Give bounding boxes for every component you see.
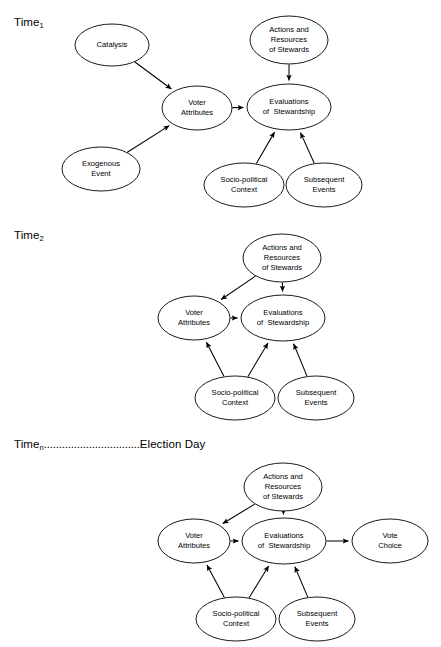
edge-subsequent-events-to-evaluations-of-stewardship: [294, 344, 307, 376]
node-label-socio-political-context: Socio-political: [213, 609, 260, 618]
nodes-layer: CatalysisExogenousEventVoterAttributesAc…: [62, 16, 428, 641]
node-label-actions-resources-of-stewards: of Stewards: [262, 263, 302, 272]
node-label-actions-resources-of-stewards: Actions and: [263, 472, 303, 481]
node-evaluations-of-stewardship: Evaluationsof Stewardship: [247, 84, 331, 130]
node-socio-political-context: Socio-politicalContext: [196, 597, 276, 641]
edge-exogenous-event-to-voter-attributes: [127, 126, 169, 153]
node-label-evaluations-of-stewardship: Evaluations: [264, 531, 303, 540]
edge-actions-resources-of-stewards-to-voter-attributes: [223, 504, 255, 523]
node-label-voter-attributes: Attributes: [178, 541, 210, 550]
node-label-vote-choice: Choice: [378, 541, 402, 550]
edge-actions-resources-of-stewards-to-voter-attributes: [221, 276, 255, 299]
node-label-catalysis: Catalysis: [97, 40, 128, 49]
node-label-actions-resources-of-stewards: of Stewards: [263, 492, 303, 501]
node-subsequent-events: SubsequentEvents: [278, 376, 354, 420]
node-label-evaluations-of-stewardship: Evaluations: [263, 308, 302, 317]
time-label-subscript: 1: [40, 21, 44, 30]
time-label-prefix: Time: [14, 16, 40, 28]
node-label-subsequent-events: Events: [312, 185, 335, 194]
node-label-evaluations-of-stewardship: of Stewardship: [257, 318, 309, 327]
time-label-timen: Timen................................Ele…: [14, 438, 205, 452]
node-socio-political-context: Socio-politicalContext: [195, 376, 275, 420]
node-label-subsequent-events: Events: [305, 619, 328, 628]
node-label-actions-resources-of-stewards: of Stewards: [269, 45, 309, 54]
time-label-prefix: Time: [14, 229, 40, 241]
node-label-actions-resources-of-stewards: Actions and: [262, 243, 302, 252]
time-label-time1: Time1: [14, 16, 44, 30]
node-label-voter-attributes: Voter: [188, 98, 206, 107]
edge-socio-political-context-to-evaluations-of-stewardship: [249, 566, 269, 598]
node-label-exogenous-event: Exogenous: [82, 159, 120, 168]
node-label-actions-resources-of-stewards: Resources: [264, 253, 300, 262]
node-exogenous-event: ExogenousEvent: [62, 147, 140, 191]
node-label-subsequent-events: Events: [304, 398, 327, 407]
node-evaluations-of-stewardship: Evaluationsof Stewardship: [241, 295, 325, 341]
node-label-voter-attributes: Voter: [185, 531, 203, 540]
edge-subsequent-events-to-evaluations-of-stewardship: [295, 567, 308, 597]
time-label-dots: ................................: [44, 438, 140, 450]
node-label-vote-choice: Vote: [382, 531, 397, 540]
path-diagram: CatalysisExogenousEventVoterAttributesAc…: [0, 0, 441, 647]
node-label-socio-political-context: Context: [222, 398, 249, 407]
node-voter-attributes: VoterAttributes: [158, 519, 230, 563]
node-label-actions-resources-of-stewards: Actions and: [269, 25, 309, 34]
node-label-subsequent-events: Subsequent: [304, 175, 345, 184]
node-subsequent-events: SubsequentEvents: [279, 597, 355, 641]
edge-socio-political-context-to-evaluations-of-stewardship: [248, 343, 268, 377]
time-label-subscript: 2: [40, 234, 44, 243]
node-label-socio-political-context: Socio-political: [212, 388, 259, 397]
node-label-evaluations-of-stewardship: of Stewardship: [258, 541, 310, 550]
node-label-actions-resources-of-stewards: Resources: [271, 35, 307, 44]
time-label-suffix: Election Day: [140, 438, 206, 450]
node-label-socio-political-context: Context: [223, 619, 250, 628]
node-catalysis: Catalysis: [75, 24, 149, 66]
node-label-evaluations-of-stewardship: Evaluations: [269, 97, 308, 106]
node-subsequent-events: SubsequentEvents: [286, 163, 362, 207]
node-voter-attributes: VoterAttributes: [158, 296, 230, 340]
node-vote-choice: VoteChoice: [352, 519, 428, 563]
node-label-actions-resources-of-stewards: Resources: [265, 482, 301, 491]
node-socio-political-context: Socio-politicalContext: [204, 163, 284, 207]
node-actions-resources-of-stewards: Actions andResourcesof Stewards: [250, 16, 328, 64]
time-label-prefix: Time: [14, 438, 40, 450]
node-label-exogenous-event: Event: [91, 169, 111, 178]
edge-subsequent-events-to-evaluations-of-stewardship: [301, 133, 315, 164]
node-label-evaluations-of-stewardship: of Stewardship: [263, 107, 315, 116]
node-label-socio-political-context: Socio-political: [221, 175, 268, 184]
diagram-canvas: CatalysisExogenousEventVoterAttributesAc…: [0, 0, 441, 647]
node-label-voter-attributes: Attributes: [181, 108, 213, 117]
edge-catalysis-to-voter-attributes: [135, 62, 171, 89]
edge-socio-political-context-to-voter-attributes: [207, 565, 224, 597]
node-label-subsequent-events: Subsequent: [296, 388, 337, 397]
node-actions-resources-of-stewards: Actions andResourcesof Stewards: [243, 234, 321, 282]
node-label-voter-attributes: Voter: [185, 308, 203, 317]
node-voter-attributes: VoterAttributes: [162, 86, 232, 130]
edge-socio-political-context-to-evaluations-of-stewardship: [256, 132, 274, 163]
node-label-subsequent-events: Subsequent: [297, 609, 338, 618]
node-label-voter-attributes: Attributes: [178, 318, 210, 327]
edge-socio-political-context-to-voter-attributes: [206, 342, 224, 376]
node-evaluations-of-stewardship: Evaluationsof Stewardship: [242, 518, 326, 564]
time-label-time2: Time2: [14, 229, 44, 243]
node-label-socio-political-context: Context: [231, 185, 258, 194]
node-actions-resources-of-stewards: Actions andResourcesof Stewards: [244, 463, 322, 511]
